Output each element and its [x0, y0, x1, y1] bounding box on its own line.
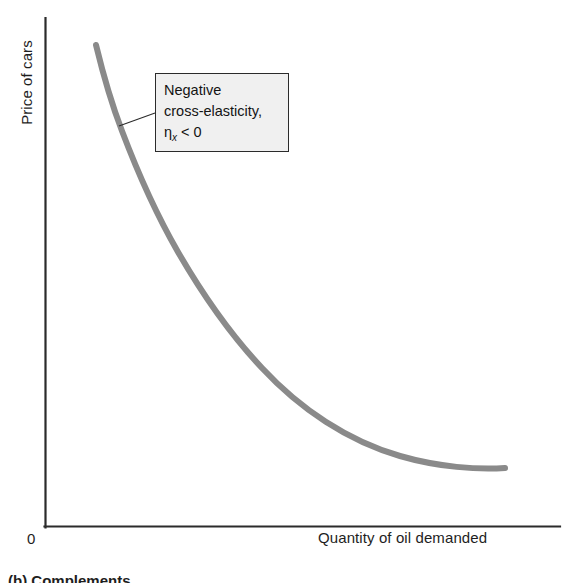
- annotation-line-2: cross-elasticity,: [164, 101, 288, 122]
- x-axis-label: Quantity of oil demanded: [318, 529, 487, 546]
- eta-symbol: η: [164, 124, 172, 140]
- figure-panel: Price of cars Quantity of oil demanded 0…: [0, 0, 570, 583]
- eta-relation: < 0: [177, 124, 202, 140]
- annotation-leader-line: [119, 113, 155, 126]
- annotation-line-3: ηx < 0: [164, 122, 288, 148]
- origin-label: 0: [27, 530, 35, 547]
- annotation-callout-box: Negative cross-elasticity, ηx < 0: [155, 73, 289, 152]
- y-axis-label: Price of cars: [18, 23, 35, 143]
- figure-caption: (b) Complements: [8, 572, 131, 583]
- annotation-line-1: Negative: [164, 80, 288, 101]
